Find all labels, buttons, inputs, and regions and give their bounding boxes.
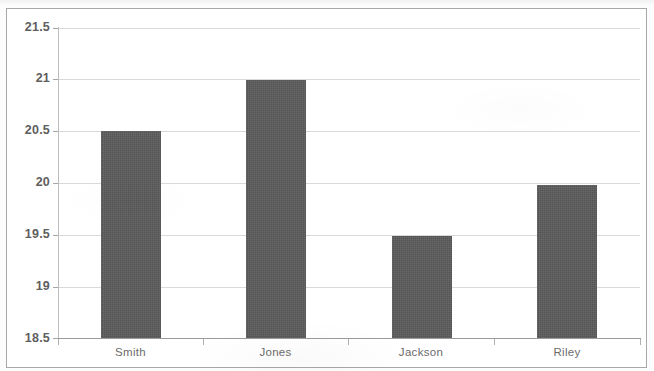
y-tick-label-20-5: 20.5 xyxy=(4,124,50,138)
y-axis-line xyxy=(58,27,59,339)
category-label-riley: Riley xyxy=(494,347,640,359)
category-label-jackson: Jackson xyxy=(348,347,494,359)
x-tick-mark-2 xyxy=(348,339,349,345)
y-tick-label-text: 19.5 xyxy=(4,228,50,241)
y-tick-label-text: 19 xyxy=(4,280,50,293)
bar-jones[interactable] xyxy=(246,80,306,338)
y-tick-label-20: 20 xyxy=(4,176,50,190)
category-label-jones: Jones xyxy=(203,347,348,359)
y-tick-label-text: 20.5 xyxy=(4,124,50,137)
x-tick-mark-3 xyxy=(494,339,495,345)
y-tick-label-19: 19 xyxy=(4,280,50,294)
y-tick-label-text: 21.5 xyxy=(4,21,50,34)
y-tick-label-19-5: 19.5 xyxy=(4,228,50,242)
y-tick-label-21: 21 xyxy=(4,72,50,86)
y-tick-label-text: 18.5 xyxy=(4,332,50,345)
scan-edge-shading xyxy=(0,0,654,7)
bar-riley[interactable] xyxy=(537,185,597,338)
y-tick-label-18-5: 18.5 xyxy=(4,332,50,346)
y-tick-label-text: 21 xyxy=(4,72,50,85)
plot-area xyxy=(58,28,640,338)
y-tick-label-text: 20 xyxy=(4,176,50,189)
gridline-21-5 xyxy=(58,28,640,29)
x-tick-mark-0 xyxy=(58,339,59,345)
bar-chart-figure: 21.5 21 20.5 20 19.5 19 18.5 xyxy=(0,0,654,371)
x-axis-line xyxy=(58,338,641,339)
bar-jackson[interactable] xyxy=(392,236,452,338)
x-tick-mark-1 xyxy=(203,339,204,345)
gridline-21 xyxy=(58,79,640,80)
category-label-smith: Smith xyxy=(58,347,203,359)
bar-smith[interactable] xyxy=(101,131,161,338)
y-tick-label-21-5: 21.5 xyxy=(4,21,50,35)
x-tick-mark-4 xyxy=(640,339,641,345)
